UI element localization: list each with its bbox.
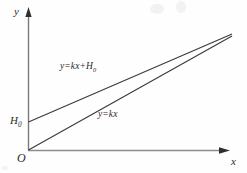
x-axis-label: x (231, 156, 236, 167)
line-with-intercept (29, 34, 233, 122)
graph-canvas (0, 0, 247, 173)
equation-label-line-through-origin: y=kx (98, 110, 117, 120)
equation-upper-main: y=kx+H (60, 61, 93, 71)
equation-label-line-with-intercept: y=kx+H0 (60, 62, 96, 73)
scan-artifact-speck (150, 4, 164, 14)
line-through-origin (29, 36, 233, 150)
equation-lower-main: y=kx (98, 109, 117, 119)
y-intercept-symbol: H (10, 114, 18, 126)
origin-label: O (17, 152, 26, 164)
x-axis-arrowhead (219, 147, 230, 154)
scan-artifact-speck (176, 1, 186, 13)
scan-artifact-speck (2, 166, 8, 170)
equation-upper-subscript: 0 (93, 66, 96, 73)
linear-graph-figure: y x O H0 y=kx+H0 y=kx (0, 0, 247, 173)
y-axis-label: y (14, 6, 19, 17)
y-intercept-label: H0 (10, 115, 22, 129)
y-intercept-subscript: 0 (18, 121, 22, 129)
y-axis-arrowhead (25, 7, 31, 17)
